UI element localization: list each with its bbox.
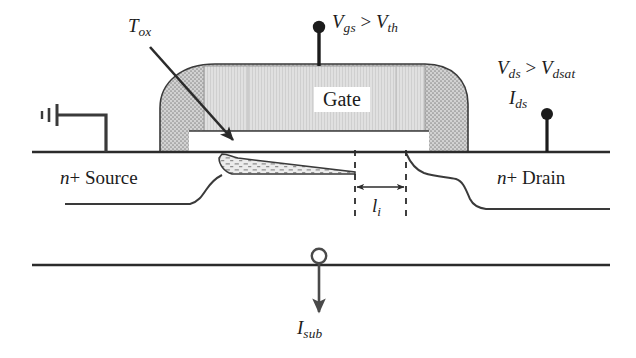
vds-sub1: ds xyxy=(509,66,521,81)
drain-terminal-group[interactable] xyxy=(541,108,553,152)
vds-condition-label: Vds > Vdsat xyxy=(497,58,575,77)
drain-n-prefix: n xyxy=(497,167,507,188)
vds-operator: > xyxy=(521,57,541,78)
vds-sub2: dsat xyxy=(553,66,576,81)
source-text: Source xyxy=(85,167,138,188)
ids-subscript: ds xyxy=(515,96,527,111)
drain-text: Drain xyxy=(522,167,565,188)
gate-label-text: Gate xyxy=(314,87,370,112)
vgs-operator: > xyxy=(356,11,376,32)
vds-v1: V xyxy=(497,57,509,78)
gate-terminal-group[interactable] xyxy=(313,21,325,66)
ground-connector-lead xyxy=(57,115,106,152)
tox-subscript: ox xyxy=(139,24,152,39)
pinch-off-length-label: li xyxy=(372,196,381,215)
substrate-current-label: Isub xyxy=(297,318,322,337)
vds-v2: V xyxy=(541,57,553,78)
drain-plus: + xyxy=(507,167,522,188)
source-region-label: n+ Source xyxy=(60,168,138,187)
gate-terminal-dot[interactable] xyxy=(313,21,325,33)
substrate-current-group[interactable] xyxy=(312,249,326,312)
mosfet-cross-section-diagram: Tox Gate Vgs > Vth Vds > Vdsat Ids n+ So… xyxy=(0,0,636,358)
source-n-prefix: n xyxy=(60,167,70,188)
gate-oxide-layer xyxy=(189,131,429,151)
li-subscript: i xyxy=(377,204,381,219)
isub-subscript: sub xyxy=(303,326,322,341)
inversion-channel-wedge xyxy=(219,154,355,174)
vgs-v1: V xyxy=(332,11,344,32)
vgs-v2: V xyxy=(376,11,388,32)
tox-label: Tox xyxy=(128,16,151,35)
vgs-sub2: th xyxy=(388,20,399,35)
drain-region-label: n+ Drain xyxy=(497,168,565,187)
body-ground-symbol-group[interactable] xyxy=(42,104,106,152)
tox-base: T xyxy=(128,15,139,36)
drain-terminal-dot[interactable] xyxy=(541,108,553,120)
ids-current-label: Ids xyxy=(509,88,527,107)
gate-label: Gate xyxy=(314,89,370,109)
vgs-sub1: gs xyxy=(344,20,356,35)
source-plus: + xyxy=(70,167,85,188)
vgs-condition-label: Vgs > Vth xyxy=(332,12,398,31)
substrate-terminal-open-circle[interactable] xyxy=(312,249,326,263)
